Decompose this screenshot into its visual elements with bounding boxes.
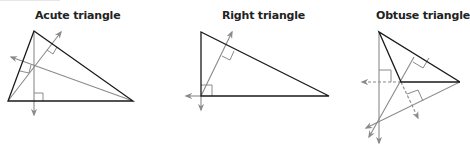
acute-right-angle-mark-left [20, 65, 31, 73]
obtuse-altitude-from-obtuse-vertex [369, 57, 414, 137]
obtuse-right-angle-mark-left [379, 70, 391, 82]
obtuse-triangle [362, 32, 460, 143]
acute-right-angle-mark-base [34, 93, 43, 101]
acute-triangle [8, 31, 133, 115]
obtuse-side-extension [401, 82, 418, 118]
right-angle-mark-corner [201, 85, 212, 96]
obtuse-altitude-from-right [366, 82, 460, 128]
right-triangle [186, 32, 329, 110]
acute-altitude-from-right [11, 57, 133, 101]
right-triangle-sides [201, 32, 329, 96]
acute-triangle-sides [8, 31, 133, 101]
obtuse-right-angle-mark-top [413, 58, 429, 68]
right-angle-mark-hypotenuse [222, 51, 234, 60]
right-altitude-to-hypotenuse [201, 32, 232, 96]
obtuse-right-angle-mark-bottom [407, 90, 423, 101]
